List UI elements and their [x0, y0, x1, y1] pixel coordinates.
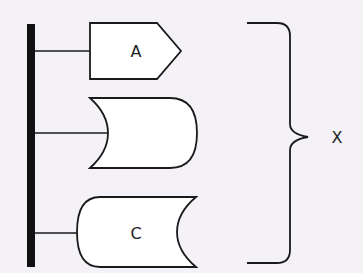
brace-label: X [332, 128, 343, 147]
shape-a-label: A [131, 42, 142, 61]
diagram-canvas: A C X [0, 0, 363, 273]
shape-c-label: C [130, 224, 141, 243]
shape-c: C [77, 197, 196, 267]
brace-outline [247, 23, 308, 263]
curly-brace: X [247, 23, 343, 263]
vertical-bus-bar [27, 24, 35, 267]
shape-a: A [90, 23, 181, 79]
